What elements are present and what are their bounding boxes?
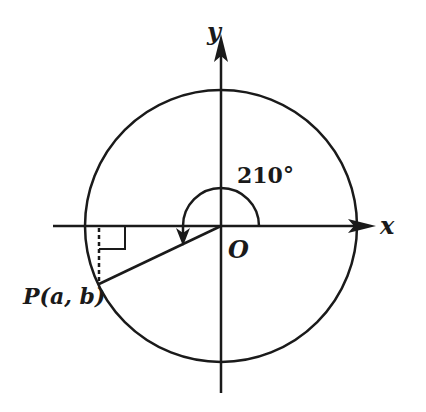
point-label: P(a, b) (22, 283, 105, 309)
right-angle-marker (99, 226, 125, 249)
origin-label: O (228, 235, 249, 264)
x-axis (53, 219, 376, 233)
y-axis-label: y (206, 17, 223, 46)
angle-label: 210° (237, 162, 294, 188)
y-axis (214, 34, 228, 393)
unit-circle-diagram: y x O 210° P(a, b) (0, 0, 426, 412)
terminal-ray (99, 226, 221, 284)
x-axis-label: x (379, 211, 395, 240)
